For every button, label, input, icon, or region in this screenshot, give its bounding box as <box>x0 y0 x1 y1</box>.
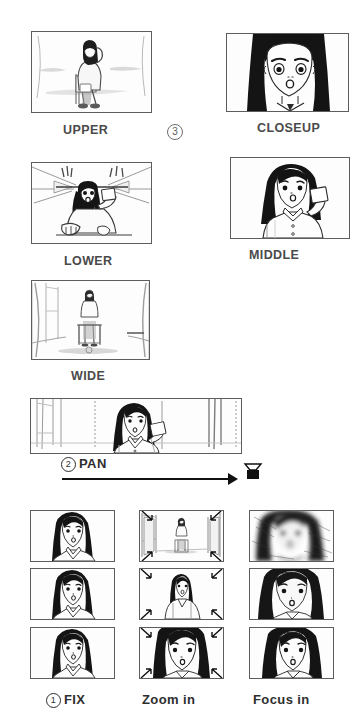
pan-label-text: PAN <box>79 456 107 471</box>
camera-icon <box>242 462 264 482</box>
panel-zoom-2 <box>139 568 224 620</box>
panel-zoom-3 <box>139 627 224 679</box>
panel-fix-3 <box>30 627 115 679</box>
panel-closeup-label: CLOSEUP <box>257 121 320 135</box>
panel-wide-label: WIDE <box>71 369 105 383</box>
fix-label-text: FIX <box>64 692 85 707</box>
panel-middle <box>230 157 350 239</box>
panel-focus-1 <box>249 510 334 562</box>
panel-closeup <box>226 33 349 112</box>
scene-marker-3: 3 <box>167 124 183 140</box>
panel-middle-label: MIDDLE <box>249 248 299 262</box>
technique-label-fix: 1FIX <box>46 692 85 708</box>
panel-focus-3 <box>249 627 334 679</box>
panel-pan <box>30 398 242 454</box>
panel-fix-2 <box>30 568 115 620</box>
panel-lower <box>31 162 152 244</box>
panel-wide <box>31 280 150 360</box>
panel-upper <box>31 31 152 113</box>
pan-direction-arrow <box>60 470 240 488</box>
panel-fix-1 <box>30 510 115 562</box>
storyboard-sheet: UPPER 3 <box>0 0 354 719</box>
panel-lower-label: LOWER <box>64 254 113 268</box>
panel-focus-2 <box>249 568 334 620</box>
technique-label-focus-in: Focus in <box>253 692 310 707</box>
panel-zoom-1 <box>139 510 224 562</box>
fix-marker: 1 <box>46 693 61 708</box>
technique-label-zoom-in: Zoom in <box>142 692 195 707</box>
panel-upper-label: UPPER <box>63 123 108 137</box>
